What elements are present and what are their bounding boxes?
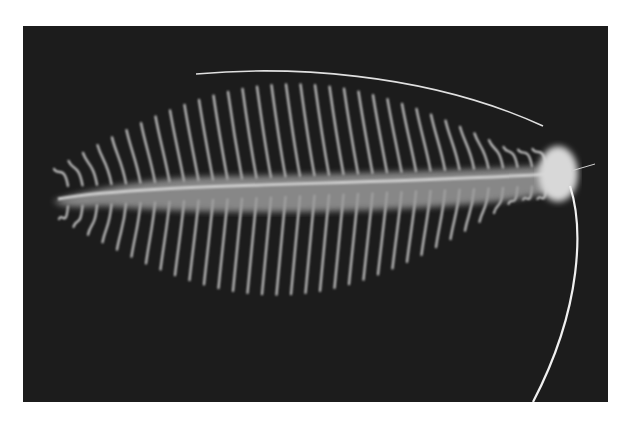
- specimen-photo: [23, 26, 608, 402]
- worm-illustration: [23, 26, 608, 402]
- worm-body: [53, 166, 564, 212]
- dorsal-antenna: [196, 71, 543, 126]
- long-tentacle: [533, 186, 577, 402]
